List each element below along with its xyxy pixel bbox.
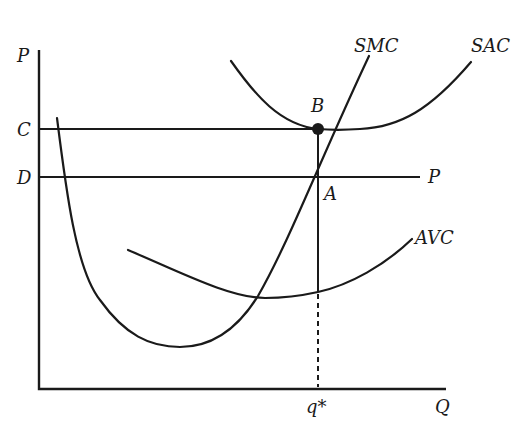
avc-curve <box>128 239 412 298</box>
sac-label: SAC <box>471 35 510 56</box>
point-a-label: A <box>322 183 337 204</box>
price-label-d: D <box>16 167 32 188</box>
avc-label: AVC <box>413 227 454 248</box>
price-line-label: P <box>427 166 441 187</box>
x-axis-label: Q <box>435 396 450 417</box>
smc-label: SMC <box>354 35 399 56</box>
y-axis-label: P <box>16 45 30 66</box>
point-b-marker <box>312 123 324 135</box>
price-label-c: C <box>17 119 31 140</box>
q-star-label: q* <box>306 396 327 417</box>
point-b-label: B <box>310 95 324 116</box>
cost-curve-diagram: P C D P SMC SAC AVC B A q* Q <box>0 0 517 440</box>
axes <box>39 50 446 389</box>
